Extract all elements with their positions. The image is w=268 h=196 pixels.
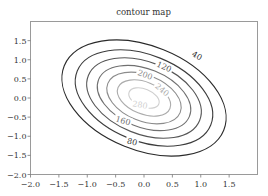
x-tick-label: 1.5 bbox=[223, 180, 236, 189]
contour-chart: contour map 4080120160200240280 −2.0−1.5… bbox=[0, 0, 268, 196]
y-tick-label: −2.0 bbox=[7, 171, 26, 180]
plot-frame bbox=[31, 22, 258, 175]
contour-line-80 bbox=[61, 31, 227, 165]
chart-title: contour map bbox=[116, 7, 171, 17]
x-axis: −2.0−1.5−1.0−0.50.00.51.01.5 bbox=[21, 175, 236, 189]
y-tick-label: 1.5 bbox=[14, 37, 27, 46]
contour-label-280: 280 bbox=[132, 99, 149, 111]
x-tick-label: −1.5 bbox=[49, 180, 68, 189]
y-tick-label: −1.0 bbox=[7, 132, 26, 141]
contour-line-160 bbox=[88, 53, 201, 143]
x-tick-label: −2.0 bbox=[21, 180, 40, 189]
y-tick-label: 0.0 bbox=[14, 94, 27, 103]
contour-line-40 bbox=[45, 18, 243, 179]
contour-label-80: 80 bbox=[126, 136, 138, 147]
y-tick-label: 0.5 bbox=[14, 75, 27, 84]
y-tick-label: −1.5 bbox=[7, 151, 26, 160]
x-tick-label: 1.0 bbox=[194, 180, 207, 189]
x-tick-label: −1.0 bbox=[78, 180, 97, 189]
x-tick-label: 0.0 bbox=[138, 180, 151, 189]
contour-labels: 4080120160200240280 bbox=[114, 49, 206, 148]
y-axis: −2.0−1.5−1.0−0.50.00.51.01.5 bbox=[7, 37, 30, 180]
y-tick-label: −0.5 bbox=[7, 113, 26, 122]
y-tick-label: 1.0 bbox=[14, 56, 27, 65]
x-tick-label: −0.5 bbox=[106, 180, 125, 189]
x-tick-label: 0.5 bbox=[166, 180, 179, 189]
contour-line-120 bbox=[75, 42, 213, 154]
contour-lines bbox=[45, 18, 243, 179]
